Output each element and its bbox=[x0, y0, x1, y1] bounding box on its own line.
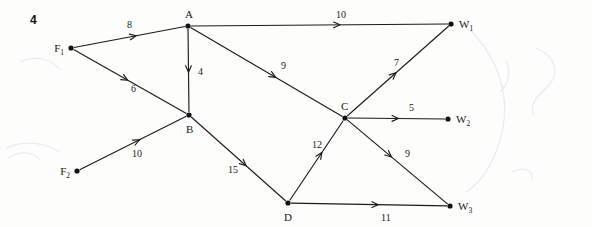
watermark-stroke-4 bbox=[466, 30, 505, 192]
node-dot-B[interactable] bbox=[186, 112, 191, 117]
node-label-sub-W2: 2 bbox=[466, 119, 470, 128]
node-label-sub-W1: 1 bbox=[469, 24, 473, 33]
node-label-A: A bbox=[185, 8, 193, 20]
node-label-F2: F2 bbox=[60, 165, 70, 180]
node-dot-A[interactable] bbox=[185, 23, 190, 28]
node-F2[interactable]: F2 bbox=[60, 165, 79, 180]
node-W2[interactable]: W2 bbox=[445, 113, 470, 128]
node-label-main-D: D bbox=[284, 211, 292, 223]
edge-weight-D-C: 12 bbox=[312, 139, 322, 150]
watermark-stroke-5 bbox=[532, 48, 555, 116]
node-label-sub-F2: 2 bbox=[66, 171, 70, 180]
edge-line-F2-B bbox=[80, 116, 187, 169]
node-B[interactable]: B bbox=[186, 112, 193, 135]
edge-line-F1-B bbox=[74, 49, 187, 113]
edge-line-D-C bbox=[290, 120, 344, 200]
watermark-stroke-2 bbox=[6, 143, 60, 152]
edge-A-to-W1 bbox=[191, 22, 448, 28]
edge-line-D-W3 bbox=[291, 203, 447, 206]
node-W1[interactable]: W1 bbox=[448, 18, 473, 33]
node-label-main-W2: W bbox=[456, 113, 467, 125]
node-label-F1: F1 bbox=[54, 42, 64, 57]
edge-C-to-W2 bbox=[348, 116, 445, 122]
node-label-C: C bbox=[341, 100, 348, 112]
figure-canvas: 4 F1F2ABCDW1W2W3 86410910151275911 bbox=[0, 0, 592, 227]
edge-line-A-C bbox=[191, 28, 343, 117]
edge-line-B-D bbox=[191, 117, 286, 201]
edge-A-to-C bbox=[191, 28, 343, 117]
watermark-stroke-7 bbox=[512, 169, 532, 180]
edge-weight-F1-A: 8 bbox=[127, 19, 132, 30]
edge-line-C-W3 bbox=[347, 120, 447, 204]
node-dot-F1[interactable] bbox=[68, 45, 73, 50]
node-dot-C[interactable] bbox=[342, 115, 347, 120]
node-label-main-W3: W bbox=[458, 200, 469, 212]
node-dot-W1[interactable] bbox=[448, 21, 453, 26]
edge-F1-to-B bbox=[74, 49, 187, 113]
edge-weight-A-B: 4 bbox=[198, 66, 203, 77]
node-label-main-C: C bbox=[341, 100, 348, 112]
edge-weight-D-W3: 11 bbox=[381, 212, 391, 223]
edge-C-to-W3 bbox=[347, 120, 447, 204]
edge-D-to-W3 bbox=[291, 202, 447, 208]
node-W3[interactable]: W3 bbox=[447, 200, 472, 215]
node-label-sub-W3: 3 bbox=[468, 206, 472, 215]
edge-B-to-D bbox=[191, 117, 286, 201]
edge-weight-C-W1: 7 bbox=[394, 57, 399, 68]
edge-weight-A-W1: 10 bbox=[336, 9, 346, 20]
node-label-W2: W2 bbox=[456, 113, 470, 128]
node-dot-W2[interactable] bbox=[445, 116, 450, 121]
edges-layer bbox=[74, 22, 449, 207]
node-F1[interactable]: F1 bbox=[54, 42, 73, 57]
node-C[interactable]: C bbox=[341, 100, 348, 121]
edge-C-to-W1 bbox=[347, 26, 449, 116]
nodes-layer: F1F2ABCDW1W2W3 bbox=[54, 8, 473, 223]
node-label-B: B bbox=[186, 123, 193, 135]
node-dot-F2[interactable] bbox=[74, 168, 79, 173]
node-label-W1: W1 bbox=[459, 18, 473, 33]
node-label-sub-F1: 1 bbox=[60, 48, 64, 57]
edge-weights-layer: 86410910151275911 bbox=[127, 9, 414, 223]
node-dot-D[interactable] bbox=[285, 200, 290, 205]
background-watermarks bbox=[6, 30, 555, 192]
edge-D-to-C bbox=[290, 120, 344, 200]
watermark-stroke-3 bbox=[8, 153, 40, 160]
node-label-main-B: B bbox=[186, 123, 193, 135]
edge-weight-C-W3: 9 bbox=[405, 148, 410, 159]
network-flow-diagram: 4 F1F2ABCDW1W2W3 86410910151275911 bbox=[0, 0, 592, 227]
node-label-main-W1: W bbox=[459, 18, 470, 30]
node-label-W3: W3 bbox=[458, 200, 472, 215]
node-dot-W3[interactable] bbox=[447, 203, 452, 208]
watermark-stroke-6 bbox=[500, 60, 509, 92]
edge-weight-F1-B: 6 bbox=[131, 83, 136, 94]
node-D[interactable]: D bbox=[284, 200, 292, 223]
edge-F2-to-B bbox=[80, 116, 187, 169]
edge-weight-C-W2: 5 bbox=[409, 102, 414, 113]
edge-A-to-B bbox=[186, 29, 192, 112]
edge-line-C-W1 bbox=[347, 26, 449, 116]
edge-weight-F2-B: 10 bbox=[132, 148, 142, 159]
edge-weight-A-C: 9 bbox=[281, 60, 286, 71]
node-label-main-A: A bbox=[185, 8, 193, 20]
node-label-D: D bbox=[284, 211, 292, 223]
edge-line-A-W1 bbox=[191, 24, 448, 26]
figure-number: 4 bbox=[30, 13, 37, 27]
watermark-stroke-1 bbox=[20, 58, 60, 70]
edge-weight-B-D: 15 bbox=[228, 164, 238, 175]
